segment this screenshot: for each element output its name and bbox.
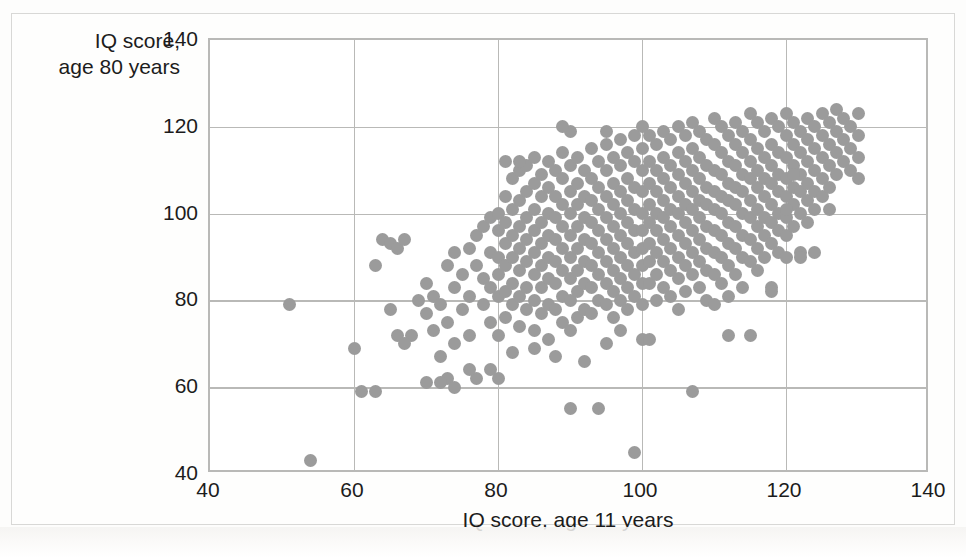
x-tick-label: 100 bbox=[622, 479, 657, 500]
scatter-point bbox=[348, 342, 361, 355]
scatter-point bbox=[535, 168, 548, 181]
x-tick-label: 80 bbox=[484, 479, 507, 500]
scatter-point bbox=[808, 246, 821, 259]
scatter-point bbox=[549, 277, 562, 290]
y-tick-label: 140 bbox=[138, 28, 198, 49]
scatter-point bbox=[664, 133, 677, 146]
scatter-point bbox=[585, 142, 598, 155]
scatter-point bbox=[420, 376, 433, 389]
y-tick-label: 80 bbox=[138, 288, 198, 309]
scatter-point bbox=[614, 324, 627, 337]
scatter-point bbox=[672, 303, 685, 316]
scatter-point bbox=[600, 125, 613, 138]
scatter-point bbox=[520, 281, 533, 294]
scatter-point bbox=[852, 129, 865, 142]
scatter-point bbox=[477, 298, 490, 311]
y-tick-label: 100 bbox=[138, 201, 198, 222]
scatter-point bbox=[852, 107, 865, 120]
scatter-point bbox=[499, 190, 512, 203]
scatter-point bbox=[542, 333, 555, 346]
scatter-point bbox=[528, 151, 541, 164]
scatter-point bbox=[729, 268, 742, 281]
scatter-point bbox=[780, 203, 793, 216]
scatter-point bbox=[448, 381, 461, 394]
scatter-point bbox=[528, 203, 541, 216]
x-tick-label: 120 bbox=[766, 479, 801, 500]
scatter-point bbox=[571, 177, 584, 190]
scatter-point bbox=[679, 129, 692, 142]
plot-area bbox=[208, 38, 928, 472]
scatter-point bbox=[441, 316, 454, 329]
scatter-point bbox=[499, 155, 512, 168]
scatter-point bbox=[751, 264, 764, 277]
scatter-point bbox=[578, 355, 591, 368]
scatter-point bbox=[434, 350, 447, 363]
scatter-point bbox=[758, 125, 771, 138]
scatter-point bbox=[448, 281, 461, 294]
scatter-point bbox=[744, 329, 757, 342]
scatter-point bbox=[607, 311, 620, 324]
scatter-point bbox=[636, 298, 649, 311]
scatter-point bbox=[664, 290, 677, 303]
scatter-point bbox=[304, 454, 317, 467]
scatter-point bbox=[852, 151, 865, 164]
scatter-point bbox=[686, 385, 699, 398]
scatter-point bbox=[787, 220, 800, 233]
scatter-point bbox=[765, 285, 778, 298]
scatter-point bbox=[434, 298, 447, 311]
scatter-point bbox=[614, 159, 627, 172]
scatter-point bbox=[636, 142, 649, 155]
scatter-point bbox=[564, 324, 577, 337]
scatter-point bbox=[492, 329, 505, 342]
scatter-point bbox=[384, 303, 397, 316]
scatter-point bbox=[463, 290, 476, 303]
scatter-point bbox=[722, 329, 735, 342]
scatter-point bbox=[708, 298, 721, 311]
scatter-point bbox=[556, 146, 569, 159]
x-tick-label: 40 bbox=[196, 479, 219, 500]
scatter-point bbox=[499, 311, 512, 324]
scatter-point bbox=[787, 168, 800, 181]
scatter-point bbox=[600, 164, 613, 177]
x-tick-label: 60 bbox=[340, 479, 363, 500]
scatter-point bbox=[463, 363, 476, 376]
scatter-point bbox=[506, 346, 519, 359]
scatter-point bbox=[528, 324, 541, 337]
scatter-point bbox=[614, 133, 627, 146]
scatter-point bbox=[628, 446, 641, 459]
scatter-point bbox=[650, 294, 663, 307]
scatter-point bbox=[398, 337, 411, 350]
scatter-point bbox=[823, 181, 836, 194]
scatter-point bbox=[484, 316, 497, 329]
y-tick-label: 40 bbox=[138, 462, 198, 483]
scatter-point bbox=[758, 251, 771, 264]
scatter-point bbox=[369, 259, 382, 272]
scatter-point bbox=[549, 303, 562, 316]
scatter-point bbox=[448, 337, 461, 350]
scatter-point bbox=[600, 337, 613, 350]
scatter-point bbox=[420, 307, 433, 320]
scatter-point bbox=[780, 251, 793, 264]
y-tick-label: 60 bbox=[138, 375, 198, 396]
scatter-point bbox=[679, 285, 692, 298]
scatter-point bbox=[650, 268, 663, 281]
scatter-point bbox=[592, 402, 605, 415]
scatter-points bbox=[210, 40, 926, 470]
scatter-point bbox=[650, 138, 663, 151]
scatter-point bbox=[549, 350, 562, 363]
scatter-point bbox=[830, 168, 843, 181]
scatter-point bbox=[398, 233, 411, 246]
scatter-point bbox=[715, 277, 728, 290]
scatter-point bbox=[556, 172, 569, 185]
scatter-point bbox=[621, 303, 634, 316]
scatter-point bbox=[852, 172, 865, 185]
scatter-point bbox=[441, 259, 454, 272]
x-tick-label: 140 bbox=[910, 479, 945, 500]
scatter-point bbox=[794, 251, 807, 264]
scatter-point bbox=[412, 294, 425, 307]
scatter-point bbox=[643, 333, 656, 346]
scatter-point bbox=[513, 320, 526, 333]
scatter-point bbox=[808, 203, 821, 216]
scatter-point bbox=[585, 307, 598, 320]
scatter-point bbox=[736, 281, 749, 294]
